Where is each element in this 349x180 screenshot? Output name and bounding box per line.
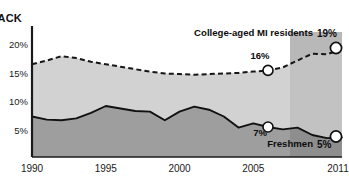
x-tick-2005: 2005: [242, 163, 265, 174]
marker-upper-2011[interactable]: [330, 42, 341, 53]
marker-lower-2011[interactable]: [330, 131, 341, 142]
page-title: BLACK: [0, 12, 22, 24]
series-label-college-aged-mi-residents: College-aged MI residents: [194, 27, 313, 38]
marker-upper-2006[interactable]: [263, 65, 273, 75]
value-label-upper-mid: 16%: [250, 50, 270, 61]
x-tick-2000: 2000: [168, 163, 191, 174]
black-enrollment-area-chart: BLACK 20% 15% 10% 5% 1990 1995 2000 2005…: [0, 0, 349, 180]
y-tick-20: 20%: [9, 39, 29, 50]
series-label-freshmen: Freshmen: [267, 138, 313, 149]
chart-container: BLACK 20% 15% 10% 5% 1990 1995 2000 2005…: [0, 0, 349, 180]
y-tick-5: 5%: [14, 125, 28, 136]
value-label-lower-end: 5%: [317, 139, 332, 150]
y-tick-15: 15%: [9, 68, 29, 79]
x-tick-1990: 1990: [21, 163, 44, 174]
x-tick-1995: 1995: [95, 163, 118, 174]
x-tick-2011: 2011: [327, 163, 349, 174]
y-tick-10: 10%: [9, 96, 29, 107]
marker-lower-2006[interactable]: [263, 122, 273, 132]
value-label-upper-end: 19%: [317, 28, 337, 39]
